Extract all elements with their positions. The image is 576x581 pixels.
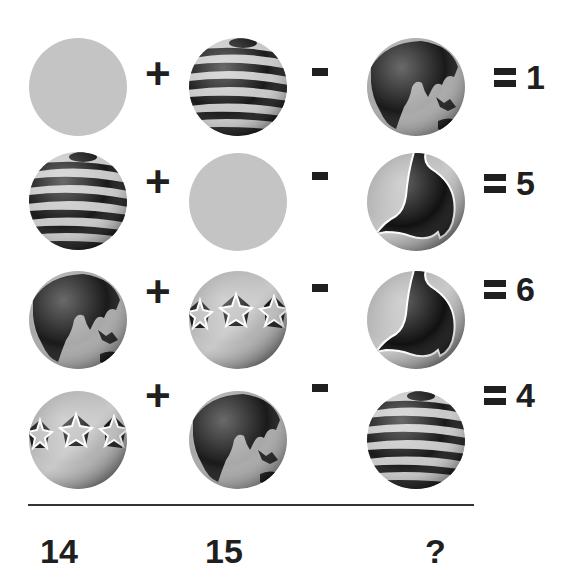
plus-sign: + — [145, 160, 171, 204]
result-value: 4 — [516, 376, 535, 415]
column-answer-2: 15 — [205, 532, 243, 571]
eagle-ball — [366, 270, 466, 370]
equation-result: 4 — [484, 376, 535, 415]
stars-ball — [188, 270, 288, 370]
column-answer-unknown: ? — [425, 532, 446, 571]
stars-ball — [28, 390, 128, 490]
equation-result: 5 — [484, 164, 535, 203]
divider-line — [28, 504, 474, 506]
globe-ball — [366, 37, 466, 137]
result-value: 5 — [516, 164, 535, 203]
equals-sign — [484, 280, 506, 299]
plain-gray-ball — [28, 37, 128, 137]
equals-sign — [484, 174, 506, 193]
plus-sign: + — [145, 374, 171, 418]
plus-sign: + — [145, 52, 171, 96]
minus-sign — [312, 384, 328, 392]
result-value: 6 — [516, 270, 535, 309]
equals-sign — [484, 386, 506, 405]
striped-ball — [188, 37, 288, 137]
striped-ball — [28, 151, 128, 251]
striped-ball — [366, 390, 466, 490]
minus-sign — [312, 68, 328, 76]
plus-sign: + — [145, 270, 171, 314]
eagle-ball — [366, 152, 466, 252]
plain-gray-ball — [188, 152, 288, 252]
globe-ball — [28, 270, 128, 370]
equation-result: 1 — [494, 58, 545, 97]
column-answer-1: 14 — [40, 532, 78, 571]
result-value: 1 — [526, 58, 545, 97]
minus-sign — [312, 284, 328, 292]
globe-ball — [188, 390, 288, 490]
equation-result: 6 — [484, 270, 535, 309]
equals-sign — [494, 68, 516, 87]
minus-sign — [312, 172, 328, 180]
